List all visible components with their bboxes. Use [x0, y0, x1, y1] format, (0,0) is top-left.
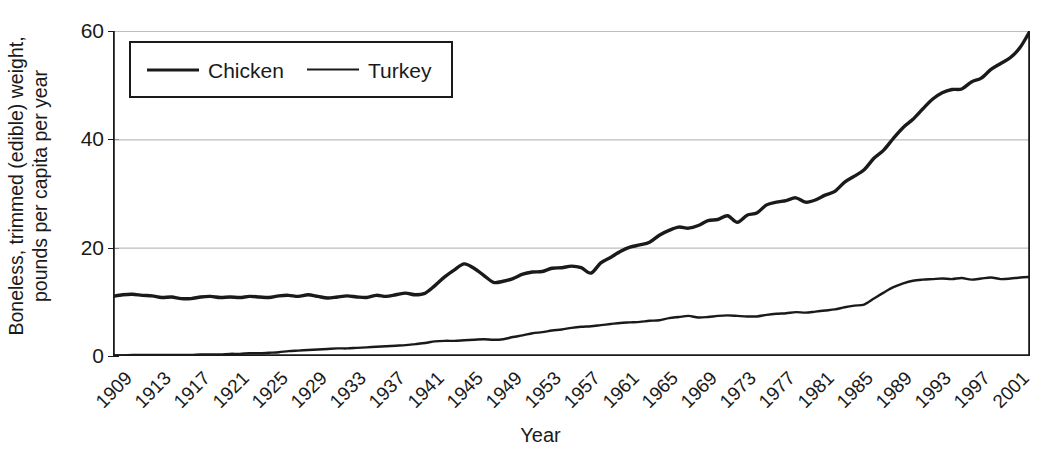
x-tick-label: 1989	[873, 368, 916, 411]
x-tick-label: 1937	[365, 368, 408, 411]
y-tick-label: 20	[58, 237, 104, 258]
x-tick-label: 1977	[755, 368, 798, 411]
y-axis-title-line1: Boneless, trimmed (edible) weight,	[5, 36, 27, 335]
series-line-turkey	[113, 277, 1030, 356]
x-tick-label: 1917	[170, 368, 213, 411]
x-tick-label: 1945	[443, 368, 486, 411]
chart-figure: Boneless, trimmed (edible) weight, pound…	[0, 0, 1051, 455]
x-tick-label: 1961	[599, 368, 642, 411]
x-tick-label: 1985	[833, 368, 876, 411]
x-tick-label: 2001	[990, 368, 1033, 411]
y-axis-title-line2: pounds per capita per year	[28, 36, 52, 335]
x-tick-label: 1981	[794, 368, 837, 411]
x-axis-title: Year	[0, 424, 1051, 446]
x-tick-label: 1993	[912, 368, 955, 411]
x-tick-label: 1965	[638, 368, 681, 411]
legend-item-chicken: Chicken	[147, 59, 284, 80]
x-tick-label: 1941	[404, 368, 447, 411]
chart-legend: Chicken Turkey	[129, 41, 453, 98]
legend-item-turkey: Turkey	[307, 59, 431, 80]
x-tick-label: 1997	[951, 368, 994, 411]
y-axis-tick-labels: 0204060	[58, 0, 104, 400]
x-tick-label: 1921	[209, 368, 252, 411]
y-tick-label: 0	[58, 345, 104, 366]
x-tick-label: 1925	[248, 368, 291, 411]
legend-line-icon-turkey	[307, 69, 359, 71]
x-tick-label: 1929	[287, 368, 330, 411]
x-axis-title-text: Year	[520, 424, 560, 446]
y-tick-label: 40	[58, 128, 104, 149]
x-tick-label: 1969	[677, 368, 720, 411]
x-tick-label: 1949	[482, 368, 525, 411]
x-tick-label: 1913	[131, 368, 174, 411]
x-tick-label: 1957	[560, 368, 603, 411]
y-tick-label: 60	[58, 20, 104, 41]
legend-label-chicken: Chicken	[208, 59, 284, 80]
legend-line-icon-chicken	[147, 68, 199, 71]
x-tick-label: 1933	[326, 368, 369, 411]
legend-label-turkey: Turkey	[368, 59, 431, 80]
y-axis-title: Boneless, trimmed (edible) weight, pound…	[0, 0, 56, 372]
x-tick-label: 1953	[521, 368, 564, 411]
x-tick-label: 1973	[716, 368, 759, 411]
y-tick-mark	[108, 356, 119, 357]
